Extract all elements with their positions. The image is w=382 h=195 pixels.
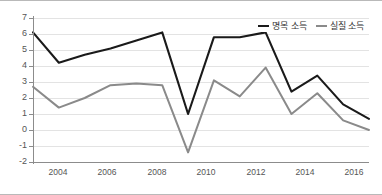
series-line-real-income (33, 68, 369, 153)
series-line-nominal-income (33, 32, 369, 118)
x-axis-label: 2012 (236, 168, 276, 177)
legend-label: 실질 소득 (330, 21, 365, 31)
x-axis-label: 2016 (334, 168, 374, 177)
x-axis-label: 2006 (87, 168, 127, 177)
x-axis-label: 2004 (38, 168, 78, 177)
y-axis-tick (29, 50, 34, 51)
y-axis-tick (29, 18, 34, 19)
y-axis-tick (29, 98, 34, 99)
legend-label: 명목 소득 (272, 21, 307, 31)
y-axis-label: -2 (1, 157, 27, 166)
y-axis-label: 4 (1, 61, 27, 70)
plot-area (33, 18, 369, 162)
y-axis-label: 1 (1, 109, 27, 118)
y-axis-label: 0 (1, 125, 27, 134)
y-axis-tick (29, 66, 34, 67)
legend-entry-real-income: 실질 소득 (316, 21, 365, 31)
y-axis-line (33, 16, 34, 164)
y-axis-tick (29, 114, 34, 115)
y-axis-label: 3 (1, 77, 27, 86)
y-axis-label: 5 (1, 45, 27, 54)
y-axis-labels: 7 6 5 4 3 2 1 0 -1 -2 (0, 1, 27, 195)
y-axis-tick (29, 34, 34, 35)
y-axis-tick (29, 82, 34, 83)
y-axis-label: -1 (1, 141, 27, 150)
y-axis-tick (29, 146, 34, 147)
x-axis-label: 2010 (186, 168, 226, 177)
income-growth-line-chart: 7 6 5 4 3 2 1 0 -1 -2 2004 2006 2008 201… (0, 0, 382, 195)
y-axis-label: 7 (1, 13, 27, 22)
x-axis-label: 2008 (137, 168, 177, 177)
chart-legend: 명목 소득 실질 소득 (256, 20, 366, 32)
legend-swatch-icon (316, 25, 327, 27)
y-axis-tick (29, 162, 34, 163)
y-axis-tick (29, 130, 34, 131)
y-axis-label: 2 (1, 93, 27, 102)
x-axis-label: 2014 (285, 168, 325, 177)
y-axis-label: 6 (1, 29, 27, 38)
legend-swatch-icon (258, 25, 269, 27)
x-axis-baseline (33, 162, 369, 163)
x-axis-labels: 2004 2006 2008 2010 2012 2014 2016 (0, 168, 382, 182)
series-container (33, 18, 369, 162)
legend-entry-nominal-income: 명목 소득 (258, 21, 307, 31)
